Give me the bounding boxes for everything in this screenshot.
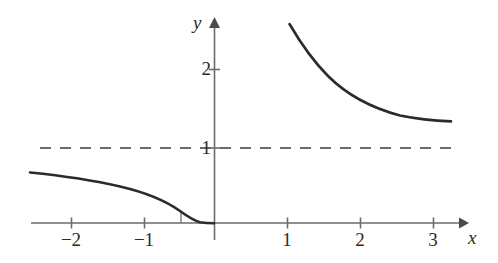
curve-left-branch	[30, 173, 214, 224]
x-tick-label-3: 3	[423, 230, 443, 249]
x-tick-label-1: 1	[277, 230, 297, 249]
x-axis-label: x	[468, 228, 476, 247]
y-axis-label: y	[193, 13, 201, 32]
x-tick-label-2: 2	[350, 230, 370, 249]
curve-right-branch	[290, 24, 452, 121]
graph-figure: y x 2 1 −2 −1 1 2 3	[0, 0, 498, 263]
y-axis-arrowhead	[209, 17, 220, 28]
x-tick-label--2: −2	[56, 230, 86, 249]
x-tick-label--1: −1	[129, 230, 159, 249]
plot-canvas	[0, 0, 498, 263]
y-tick-label-1: 1	[195, 138, 211, 157]
y-tick-label-2: 2	[195, 59, 211, 78]
